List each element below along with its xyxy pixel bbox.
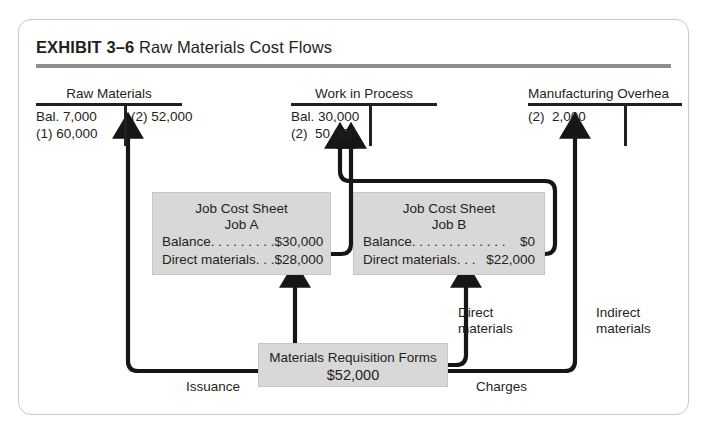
t-account-title: Raw Materials: [36, 86, 182, 101]
job-sheet-job-name: Job A: [162, 217, 321, 233]
t-account-body: (2) 2,000: [528, 106, 691, 150]
t-account-entry: (2) 2,000: [528, 108, 586, 125]
flow-label-direct-materials: Direct materials: [458, 305, 513, 337]
flow-label-issuance: Issuance: [186, 379, 240, 395]
materials-requisition-amount: $52,000: [259, 366, 447, 385]
row-value: $28,000: [275, 251, 324, 269]
row-value: $0: [520, 233, 535, 251]
flow-label-indirect-materials: Indirect materials: [596, 305, 651, 337]
row-label: Direct materials. . .: [363, 251, 476, 269]
row-label: Balance. . . . . . . . . . . . .: [363, 233, 506, 251]
job-sheet-row: Balance. . . . . . . . . . . . . $0: [363, 233, 535, 251]
flow-label-line: materials: [458, 321, 513, 337]
job-cost-sheet-job-b: Job Cost Sheet Job B Balance. . . . . . …: [353, 192, 545, 275]
t-account-debit-side: (2) 2,000: [528, 108, 586, 125]
t-account-stem: [624, 106, 627, 146]
job-sheet-heading: Job Cost Sheet: [162, 201, 321, 217]
t-account-debit-side: Bal. 7,000 (1) 60,000: [36, 108, 98, 142]
job-cost-sheet-job-a: Job Cost Sheet Job A Balance. . . . . . …: [152, 192, 331, 275]
flow-label-line: Direct: [458, 305, 513, 321]
t-account-work-in-process: Work in Process Bal. 30,000 (2) 50,000: [291, 86, 437, 150]
job-sheet-heading: Job Cost Sheet: [363, 201, 535, 217]
t-account-body: Bal. 30,000 (2) 50,000: [291, 106, 437, 150]
t-account-stem: [369, 106, 372, 146]
t-account-debit-side: Bal. 30,000 (2) 50,000: [291, 108, 359, 142]
t-account-entry: (2) 52,000: [131, 108, 193, 125]
flow-label-line: materials: [596, 321, 651, 337]
materials-requisition-forms-box: Materials Requisition Forms $52,000: [258, 343, 448, 387]
job-sheet-row: Balance. . . . . . . . . $30,000: [162, 233, 321, 251]
flow-label-line: Indirect: [596, 305, 651, 321]
row-label: Balance. . . . . . . . .: [162, 233, 275, 251]
t-account-title: Manufacturing Overhea: [528, 86, 691, 101]
t-account-entry: Bal. 30,000: [291, 108, 359, 125]
t-account-raw-materials: Raw Materials Bal. 7,000 (1) 60,000 (2) …: [36, 86, 182, 150]
t-account-manufacturing-overhead: Manufacturing Overhea (2) 2,000: [528, 86, 691, 150]
t-account-body: Bal. 7,000 (1) 60,000 (2) 52,000: [36, 106, 182, 150]
flow-label-charges: Charges: [476, 379, 527, 395]
t-account-stem: [124, 106, 127, 146]
materials-requisition-title: Materials Requisition Forms: [259, 349, 447, 366]
t-account-entry: (1) 60,000: [36, 125, 98, 142]
job-sheet-job-name: Job B: [363, 217, 535, 233]
t-account-credit-side: (2) 52,000: [131, 108, 193, 125]
t-account-entry: (2) 50,000: [291, 125, 359, 142]
row-value: $22,000: [486, 251, 535, 269]
row-value: $30,000: [275, 233, 324, 251]
job-sheet-row: Direct materials. . . $28,000: [162, 251, 321, 269]
t-account-entry: Bal. 7,000: [36, 108, 98, 125]
row-label: Direct materials. . .: [162, 251, 275, 269]
job-sheet-row: Direct materials. . . $22,000: [363, 251, 535, 269]
t-account-title: Work in Process: [291, 86, 437, 101]
